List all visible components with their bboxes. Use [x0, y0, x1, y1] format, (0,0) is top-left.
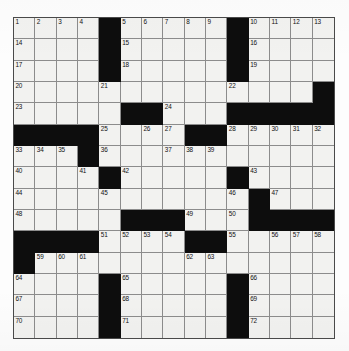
grid-cell[interactable]: 9 — [206, 18, 227, 39]
grid-cell[interactable] — [313, 146, 334, 167]
grid-cell[interactable]: 70 — [14, 317, 35, 338]
grid-cell[interactable] — [270, 39, 291, 60]
grid-cell[interactable] — [35, 61, 56, 82]
grid-cell[interactable]: 13 — [313, 18, 334, 39]
grid-cell[interactable] — [313, 253, 334, 274]
grid-cell[interactable]: 66 — [249, 274, 270, 295]
grid-cell[interactable]: 23 — [14, 103, 35, 124]
grid-cell[interactable] — [270, 253, 291, 274]
grid-cell[interactable]: 61 — [78, 253, 99, 274]
grid-cell[interactable]: 41 — [78, 167, 99, 188]
grid-cell[interactable] — [291, 317, 312, 338]
grid-cell[interactable] — [291, 61, 312, 82]
grid-cell[interactable]: 29 — [249, 125, 270, 146]
grid-cell[interactable] — [35, 39, 56, 60]
grid-cell[interactable]: 58 — [313, 231, 334, 252]
grid-cell[interactable] — [270, 146, 291, 167]
grid-cell[interactable]: 57 — [291, 231, 312, 252]
grid-cell[interactable]: 38 — [185, 146, 206, 167]
grid-cell[interactable]: 12 — [291, 18, 312, 39]
grid-cell[interactable]: 44 — [14, 189, 35, 210]
grid-cell[interactable] — [291, 167, 312, 188]
grid-cell[interactable] — [313, 39, 334, 60]
grid-cell[interactable]: 68 — [121, 295, 142, 316]
grid-cell[interactable]: 30 — [270, 125, 291, 146]
grid-cell[interactable] — [270, 317, 291, 338]
grid-cell[interactable]: 63 — [206, 253, 227, 274]
grid-cell[interactable] — [35, 295, 56, 316]
grid-cell[interactable] — [57, 39, 78, 60]
grid-cell[interactable]: 26 — [142, 125, 163, 146]
grid-cell[interactable] — [249, 253, 270, 274]
grid-cell[interactable] — [313, 61, 334, 82]
grid-cell[interactable] — [291, 253, 312, 274]
grid-cell[interactable]: 42 — [121, 167, 142, 188]
grid-cell[interactable] — [99, 210, 120, 231]
grid-cell[interactable]: 16 — [249, 39, 270, 60]
grid-cell[interactable]: 25 — [99, 125, 120, 146]
grid-cell[interactable] — [57, 103, 78, 124]
grid-cell[interactable] — [78, 61, 99, 82]
grid-cell[interactable]: 54 — [163, 231, 184, 252]
grid-cell[interactable] — [57, 189, 78, 210]
grid-cell[interactable] — [206, 39, 227, 60]
grid-cell[interactable]: 67 — [14, 295, 35, 316]
grid-cell[interactable]: 11 — [270, 18, 291, 39]
grid-cell[interactable] — [142, 146, 163, 167]
grid-cell[interactable] — [163, 317, 184, 338]
grid-cell[interactable] — [57, 61, 78, 82]
grid-cell[interactable] — [185, 167, 206, 188]
grid-cell[interactable] — [227, 146, 248, 167]
grid-cell[interactable] — [121, 125, 142, 146]
grid-cell[interactable]: 64 — [14, 274, 35, 295]
grid-cell[interactable] — [206, 61, 227, 82]
grid-cell[interactable] — [142, 295, 163, 316]
grid-cell[interactable]: 47 — [270, 189, 291, 210]
grid-cell[interactable]: 50 — [227, 210, 248, 231]
grid-cell[interactable] — [142, 61, 163, 82]
grid-cell[interactable] — [78, 317, 99, 338]
grid-cell[interactable] — [142, 82, 163, 103]
grid-cell[interactable]: 14 — [14, 39, 35, 60]
grid-cell[interactable] — [78, 189, 99, 210]
grid-cell[interactable]: 62 — [185, 253, 206, 274]
grid-cell[interactable] — [185, 295, 206, 316]
grid-cell[interactable]: 65 — [121, 274, 142, 295]
crossword-grid[interactable]: 1234567891011121314151617181920212223242… — [13, 17, 335, 339]
grid-cell[interactable]: 56 — [270, 231, 291, 252]
grid-cell[interactable] — [249, 82, 270, 103]
grid-cell[interactable]: 5 — [121, 18, 142, 39]
grid-cell[interactable]: 10 — [249, 18, 270, 39]
grid-cell[interactable] — [185, 39, 206, 60]
grid-cell[interactable] — [121, 253, 142, 274]
grid-cell[interactable] — [163, 189, 184, 210]
grid-cell[interactable] — [57, 210, 78, 231]
grid-cell[interactable]: 40 — [14, 167, 35, 188]
grid-cell[interactable] — [313, 189, 334, 210]
grid-cell[interactable]: 8 — [185, 18, 206, 39]
grid-cell[interactable] — [163, 167, 184, 188]
grid-cell[interactable]: 7 — [163, 18, 184, 39]
grid-cell[interactable] — [35, 210, 56, 231]
grid-cell[interactable] — [249, 231, 270, 252]
grid-cell[interactable]: 2 — [35, 18, 56, 39]
grid-cell[interactable] — [78, 82, 99, 103]
grid-cell[interactable] — [163, 39, 184, 60]
grid-cell[interactable] — [313, 295, 334, 316]
grid-cell[interactable] — [57, 274, 78, 295]
grid-cell[interactable]: 33 — [14, 146, 35, 167]
grid-cell[interactable] — [163, 61, 184, 82]
grid-cell[interactable] — [270, 61, 291, 82]
grid-cell[interactable] — [163, 274, 184, 295]
grid-cell[interactable] — [206, 82, 227, 103]
grid-cell[interactable] — [121, 189, 142, 210]
grid-cell[interactable] — [291, 295, 312, 316]
grid-cell[interactable]: 18 — [121, 61, 142, 82]
grid-cell[interactable] — [185, 103, 206, 124]
grid-cell[interactable] — [99, 103, 120, 124]
grid-cell[interactable]: 15 — [121, 39, 142, 60]
grid-cell[interactable]: 19 — [249, 61, 270, 82]
grid-cell[interactable]: 22 — [227, 82, 248, 103]
grid-cell[interactable]: 36 — [99, 146, 120, 167]
grid-cell[interactable] — [206, 103, 227, 124]
